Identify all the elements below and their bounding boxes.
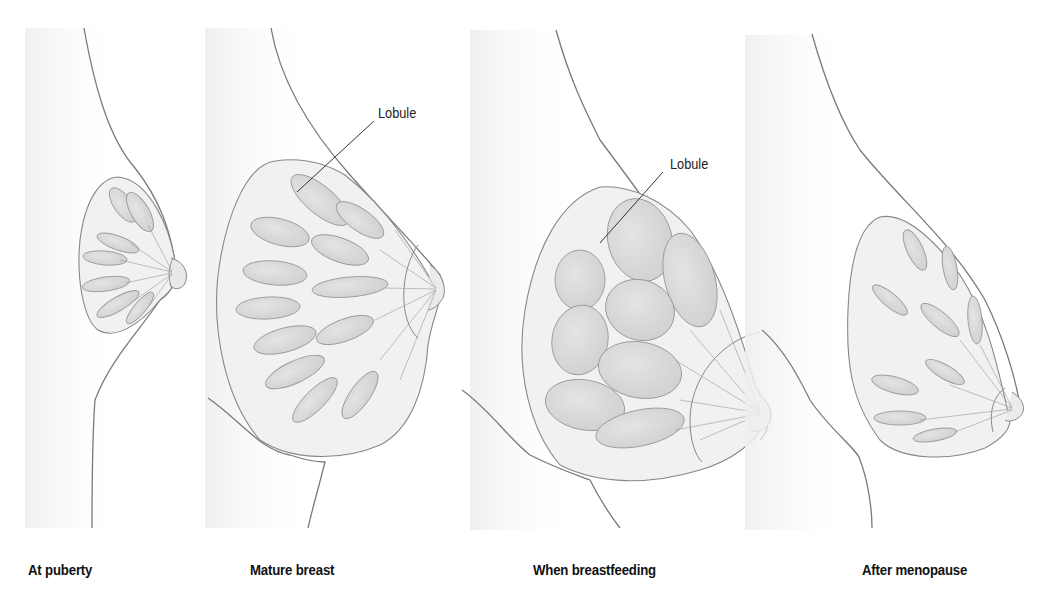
panel-puberty xyxy=(25,28,186,528)
lobule-label-mature: Lobule xyxy=(378,104,416,121)
panel-mature-breast xyxy=(205,28,444,528)
panel-breastfeeding xyxy=(462,30,771,530)
lobule-label-breastfeeding: Lobule xyxy=(670,155,708,172)
breast-development-diagram xyxy=(0,0,1047,595)
caption-mature-breast: Mature breast xyxy=(250,561,334,578)
panel-menopause xyxy=(745,34,1024,530)
caption-at-puberty: At puberty xyxy=(28,561,92,578)
caption-when-breastfeeding: When breastfeeding xyxy=(533,561,656,578)
caption-after-menopause: After menopause xyxy=(862,561,967,578)
